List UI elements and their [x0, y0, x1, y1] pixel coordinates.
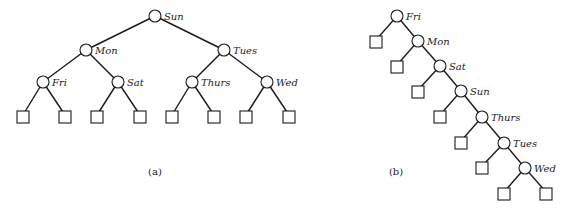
external-node-square: [240, 111, 252, 123]
balanced-tree-a: SunMonTuesFriSatThursWed(a): [17, 10, 298, 177]
external-node-square: [540, 188, 552, 200]
external-node-square: [59, 111, 71, 123]
node-tues-circle: [498, 137, 510, 149]
node-mon-circle: [80, 44, 92, 56]
node-fri-circle: [37, 76, 49, 88]
node-mon-label: Mon: [426, 36, 450, 47]
node-wed-circle: [261, 76, 273, 88]
node-sat-circle: [112, 76, 124, 88]
node-sun-circle: [149, 10, 161, 22]
node-tues-label: Tues: [233, 45, 257, 56]
diagram-canvas: SunMonTuesFriSatThursWed(a) FriMonSatSun…: [0, 0, 568, 208]
external-node-square: [134, 111, 146, 123]
external-node-square: [476, 162, 488, 174]
external-node-square: [434, 111, 446, 123]
node-thurs-label: Thurs: [491, 112, 520, 123]
external-node-square: [283, 111, 295, 123]
node-tues-circle: [218, 44, 230, 56]
external-node-square: [412, 86, 424, 98]
node-sun-circle: [455, 85, 467, 97]
node-sun-label: Sun: [164, 11, 184, 22]
node-fri-label: Fri: [51, 77, 67, 88]
node-mon-circle: [412, 35, 424, 47]
node-wed-circle: [519, 162, 531, 174]
node-wed-label: Wed: [534, 163, 556, 174]
external-node-square: [17, 111, 29, 123]
external-node-square: [498, 188, 510, 200]
node-sat-circle: [434, 60, 446, 72]
caption-tree-a: (a): [148, 166, 162, 177]
external-node-square: [391, 61, 403, 73]
node-sat-label: Sat: [449, 61, 467, 72]
external-node-square: [91, 111, 103, 123]
external-node-square: [370, 36, 382, 48]
degenerate-tree-b: FriMonSatSunThursTuesWed(b): [370, 10, 556, 200]
node-tues-label: Tues: [513, 138, 537, 149]
node-mon-label: Mon: [94, 45, 118, 56]
external-node-square: [455, 137, 467, 149]
node-thurs-label: Thurs: [201, 77, 230, 88]
node-wed-label: Wed: [276, 77, 298, 88]
node-sat-label: Sat: [127, 77, 145, 88]
node-fri-label: Fri: [405, 11, 421, 22]
external-node-square: [166, 111, 178, 123]
external-node-square: [208, 111, 220, 123]
caption-tree-b: (b): [389, 166, 403, 177]
node-fri-circle: [391, 10, 403, 22]
node-sun-label: Sun: [470, 86, 490, 97]
node-thurs-circle: [186, 76, 198, 88]
node-thurs-circle: [476, 111, 488, 123]
